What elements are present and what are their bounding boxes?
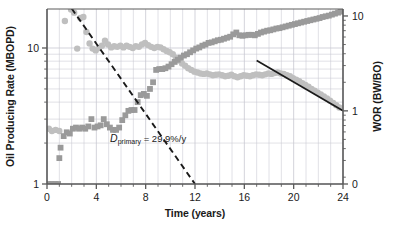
xtick-label: 4: [93, 191, 99, 203]
y2tick-label: 0: [352, 178, 358, 190]
decline-subscript: primary: [118, 138, 142, 146]
ytick-label: 1: [33, 178, 39, 190]
ytick-label: 10: [27, 42, 39, 54]
xtick-label: 12: [189, 191, 201, 203]
semilog-decline-plot: 048121620241101010 Dprimary = 29.9%/y Oi…: [0, 0, 394, 226]
y2tick-label: 10: [352, 10, 364, 22]
primary-decline-label: Dprimary = 29.9%/y: [110, 132, 186, 146]
chart-annotations: Dprimary = 29.9%/y: [110, 132, 186, 146]
xtick-label: 0: [44, 191, 50, 203]
decline-value: = 29.9%/y: [141, 133, 186, 144]
wor-decline-solid-line: [257, 60, 343, 110]
y2-axis-title: WOR (BW/BO): [371, 61, 383, 132]
x-axis-title: Time (years): [165, 207, 225, 219]
xtick-label: 16: [238, 191, 250, 203]
xtick-label: 20: [288, 191, 300, 203]
xtick-label: 8: [143, 191, 149, 203]
xtick-label: 24: [337, 191, 349, 203]
y-axis-title: Oil Producing Rate (MBOPD): [4, 26, 16, 167]
data-series-layer: [46, 6, 344, 187]
chart-figure: 048121620241101010 Dprimary = 29.9%/y Oi…: [0, 0, 394, 226]
axis-tick-labels: 048121620241101010: [27, 10, 364, 203]
y2tick-label: 1: [352, 105, 358, 117]
